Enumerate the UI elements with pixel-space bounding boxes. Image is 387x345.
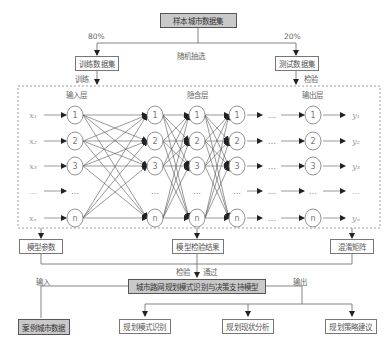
neuron-label: 2	[152, 137, 157, 146]
output-layer-label: 输出层	[302, 89, 323, 100]
neuron-label: 1	[194, 111, 199, 120]
neuron-label: 2	[310, 137, 315, 146]
input-variable: x₃	[29, 162, 37, 171]
model-params-box: 模型参数	[19, 239, 63, 254]
input-variable: …	[29, 187, 37, 196]
input-layer-label: 输入层	[66, 89, 87, 100]
pattern-recognition-box: 规划模式识别	[119, 319, 171, 334]
input-label: 输入	[36, 276, 50, 287]
neuron-label: 3	[234, 162, 239, 171]
check-label: 检验	[176, 266, 190, 277]
neuron-label: 1	[152, 111, 157, 120]
neuron-label: 1	[234, 111, 239, 120]
test-action-label: 检验	[304, 73, 318, 84]
case-city-data-box: 案例城市数据	[18, 319, 70, 335]
neuron-label: 1	[310, 111, 315, 120]
ellipsis: …	[268, 187, 276, 196]
output-label: 输出	[293, 276, 307, 287]
neuron-label: n	[310, 214, 315, 223]
ellipsis: …	[193, 187, 201, 196]
ellipsis: …	[268, 214, 276, 223]
neuron-label: 3	[72, 162, 77, 171]
output-variable: yₙ	[351, 214, 360, 223]
ellipsis: …	[268, 162, 276, 171]
input-variable: x₁	[29, 111, 37, 120]
output-variable: y₃	[351, 162, 360, 171]
train-action-label: 训练	[75, 73, 89, 84]
neuron-label: 3	[310, 162, 315, 171]
confusion-matrix-box: 混淆矩阵	[330, 239, 374, 254]
ellipsis: …	[233, 187, 241, 196]
pass-label: 通过	[203, 266, 217, 277]
output-variable: …	[352, 187, 360, 196]
ellipsis: …	[151, 187, 159, 196]
ellipsis: …	[309, 187, 317, 196]
neuron-label: n	[72, 214, 77, 223]
input-variable: x₂	[29, 137, 37, 146]
neuron-label: n	[194, 214, 199, 223]
neuron-label: 3	[194, 162, 199, 171]
strategy-suggestion-box: 规划策略建议	[325, 319, 377, 334]
model-test-result-box: 模型检验结果	[172, 239, 224, 254]
ellipsis: …	[71, 187, 79, 196]
neuron-label: 2	[194, 137, 199, 146]
neuron-label: 1	[72, 111, 77, 120]
neuron-label: 3	[152, 162, 157, 171]
test-set-box: 测试数据集	[275, 56, 319, 71]
hidden-layer-label: 隐含层	[187, 89, 208, 100]
neuron-label: n	[234, 214, 239, 223]
neuron-label: n	[152, 214, 157, 223]
input-variable: xₙ	[29, 214, 37, 223]
output-variable: y₁	[351, 111, 360, 120]
random-split-label: 随机抽选	[177, 50, 205, 61]
decision-model-box: 城市路网规划模式识别与决策支持模型	[128, 279, 266, 294]
train-percent: 80%	[88, 32, 105, 41]
dataset-box: 样本城市数据集	[160, 13, 237, 28]
ellipsis: …	[268, 111, 276, 120]
neuron-label: 2	[72, 137, 77, 146]
train-set-box: 训练数据集	[75, 56, 119, 71]
status-analysis-box: 规划现状分析	[222, 319, 274, 334]
ellipsis: …	[268, 137, 276, 146]
test-percent: 20%	[284, 32, 301, 41]
neuron-label: 2	[234, 137, 239, 146]
output-variable: y₂	[351, 137, 360, 146]
